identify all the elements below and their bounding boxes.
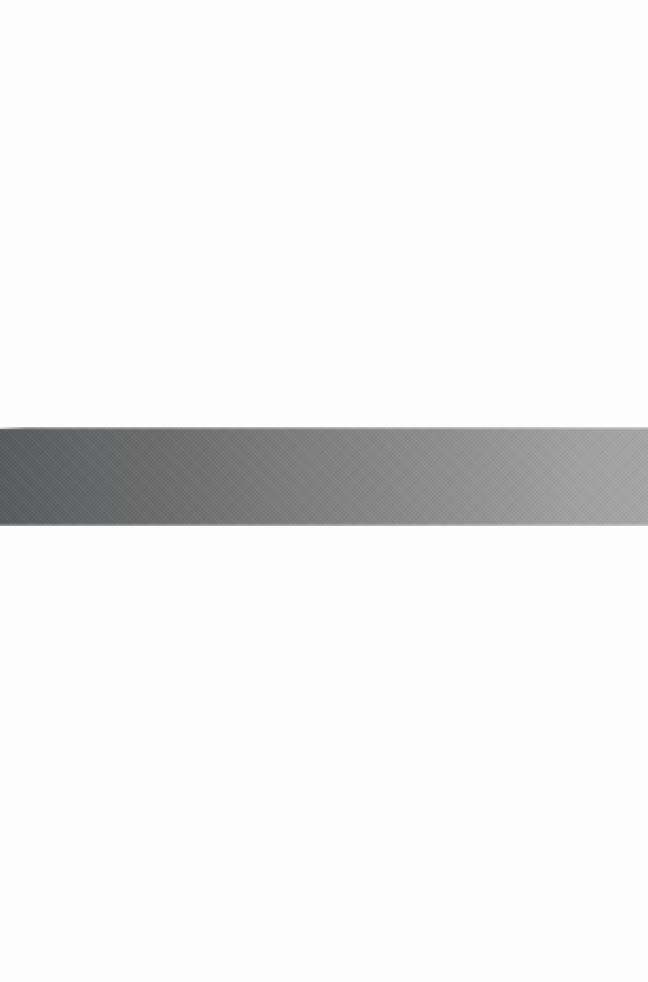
horizontal-gradient-band [0,427,648,526]
gradient-band-fill [0,427,648,526]
screenshot-canvas [0,0,648,982]
gradient-band-container [0,427,648,526]
